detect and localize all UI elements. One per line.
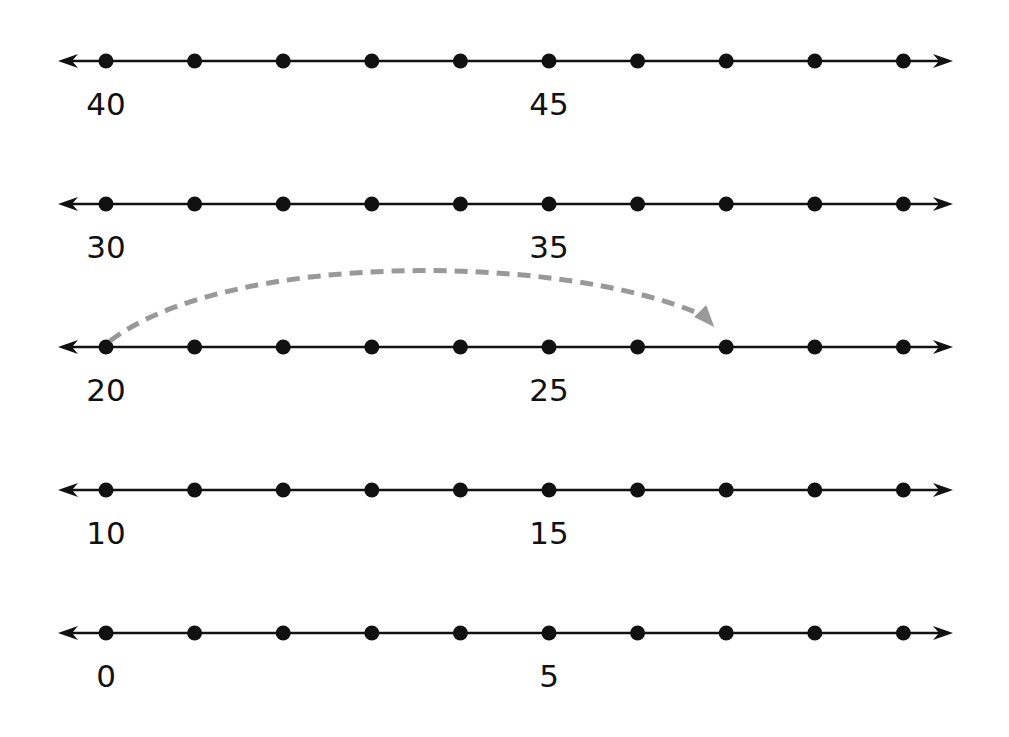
tick-dot	[719, 340, 734, 355]
tick-dot	[542, 483, 557, 498]
number-line-30	[58, 197, 953, 212]
tick-dot	[364, 197, 379, 212]
tick-dot	[453, 54, 468, 69]
tick-dot	[453, 197, 468, 212]
tick-dot	[719, 626, 734, 641]
tick-dot	[896, 626, 911, 641]
tick-dot	[276, 54, 291, 69]
tick-dot	[807, 483, 822, 498]
tick-dot	[542, 340, 557, 355]
tick-dot	[542, 54, 557, 69]
tick-dot	[630, 54, 645, 69]
tick-dot	[453, 340, 468, 355]
number-lines-diagram: 404530352025101505	[0, 0, 1009, 737]
tick-dot	[896, 54, 911, 69]
tick-dot	[453, 483, 468, 498]
tick-dot	[99, 197, 114, 212]
tick-dot	[364, 340, 379, 355]
tick-dot	[99, 54, 114, 69]
tick-dot	[187, 197, 202, 212]
tick-dot	[364, 626, 379, 641]
number-line-0	[58, 626, 953, 641]
tick-dot	[896, 197, 911, 212]
jump-arc	[110, 271, 702, 341]
tick-dot	[364, 483, 379, 498]
tick-dot	[630, 483, 645, 498]
tick-dot	[187, 483, 202, 498]
tick-label: 35	[529, 232, 568, 263]
tick-dot	[453, 626, 468, 641]
tick-dot	[719, 197, 734, 212]
tick-dot	[276, 197, 291, 212]
tick-label: 10	[86, 518, 125, 549]
tick-dot	[807, 626, 822, 641]
tick-dot	[99, 626, 114, 641]
jump-arrowhead-icon	[694, 305, 714, 327]
tick-dot	[276, 626, 291, 641]
tick-dot	[719, 483, 734, 498]
tick-label: 25	[529, 375, 568, 406]
tick-dot	[630, 626, 645, 641]
tick-label: 30	[86, 232, 125, 263]
tick-dot	[807, 340, 822, 355]
tick-dot	[276, 483, 291, 498]
tick-dot	[276, 340, 291, 355]
tick-label: 20	[86, 375, 125, 406]
tick-dot	[542, 626, 557, 641]
number-lines-canvas	[0, 0, 1009, 737]
number-line-20	[58, 340, 953, 355]
tick-dot	[630, 340, 645, 355]
tick-label: 40	[86, 89, 125, 120]
tick-dot	[187, 340, 202, 355]
tick-dot	[807, 54, 822, 69]
tick-dot	[896, 483, 911, 498]
tick-dot	[364, 54, 379, 69]
tick-dot	[630, 197, 645, 212]
tick-label: 0	[96, 661, 116, 692]
tick-label: 5	[539, 661, 559, 692]
tick-dot	[896, 340, 911, 355]
tick-dot	[807, 197, 822, 212]
tick-label: 45	[529, 89, 568, 120]
number-line-40	[58, 54, 953, 69]
tick-dot	[99, 483, 114, 498]
tick-dot	[542, 197, 557, 212]
tick-dot	[719, 54, 734, 69]
tick-dot	[187, 54, 202, 69]
tick-label: 15	[529, 518, 568, 549]
tick-dot	[187, 626, 202, 641]
number-line-10	[58, 483, 953, 498]
